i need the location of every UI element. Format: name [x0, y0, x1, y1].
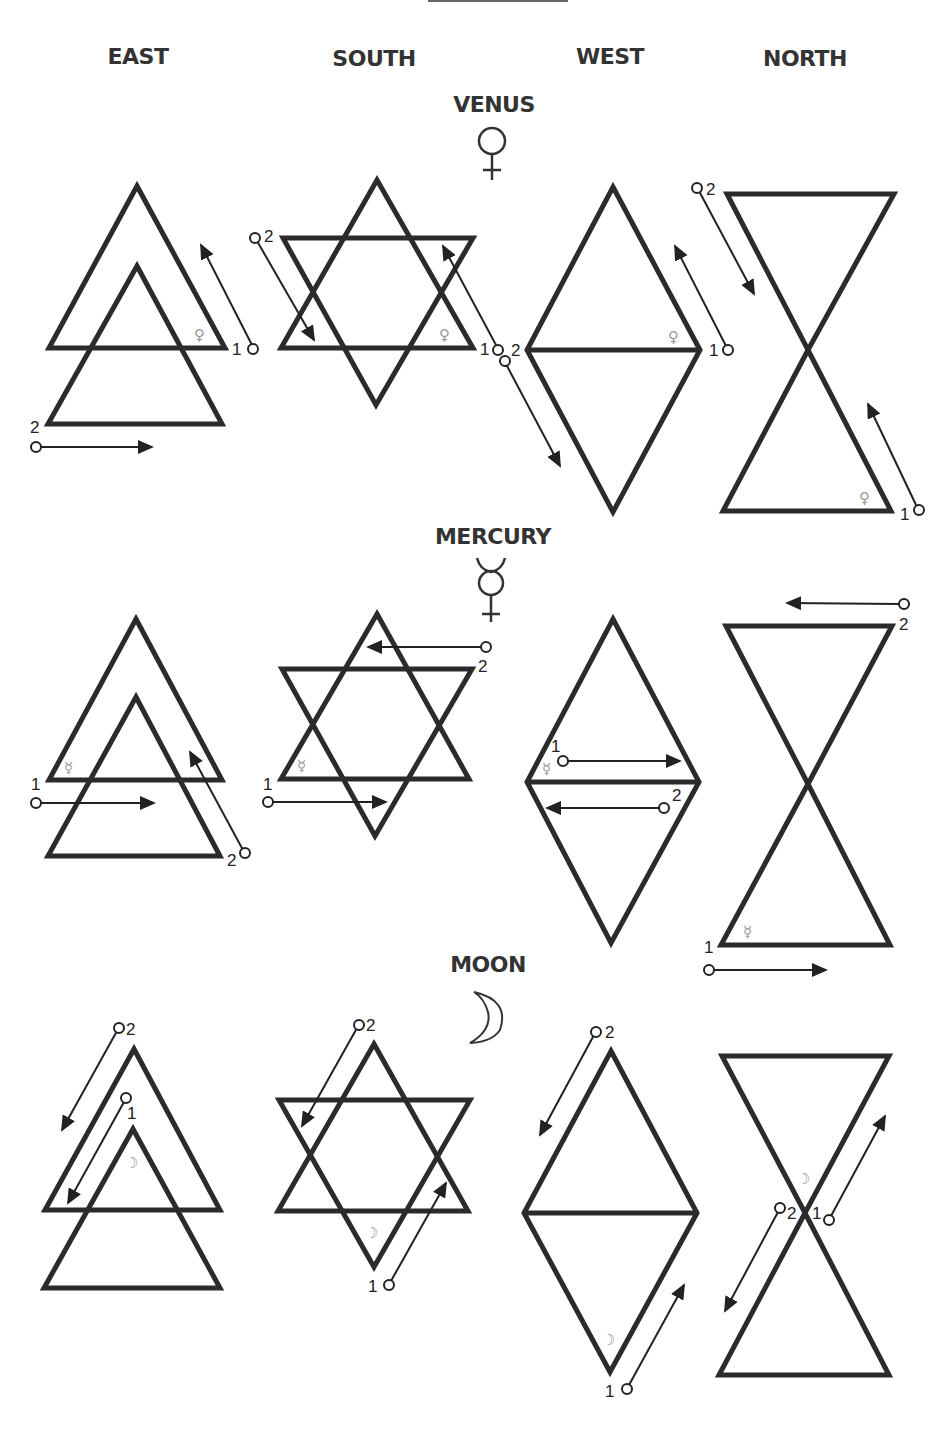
- svg-text:2: 2: [126, 1020, 135, 1039]
- svg-text:♀: ♀: [439, 326, 450, 344]
- mercury-south-figure: ☿ 1 2: [263, 614, 491, 836]
- svg-text:1: 1: [368, 1277, 377, 1296]
- svg-text:1: 1: [127, 1104, 136, 1123]
- svg-text:1: 1: [704, 938, 713, 957]
- svg-text:☿: ☿: [542, 760, 551, 778]
- svg-text:2: 2: [366, 1016, 375, 1035]
- svg-text:☽: ☽: [365, 1224, 378, 1242]
- svg-text:2: 2: [478, 657, 487, 676]
- svg-text:☽: ☽: [125, 1154, 138, 1172]
- svg-text:2: 2: [264, 227, 273, 246]
- venus-symbol-icon: [479, 128, 505, 180]
- svg-text:1: 1: [263, 775, 272, 794]
- svg-text:☽: ☽: [797, 1170, 810, 1188]
- svg-text:2: 2: [227, 851, 236, 870]
- svg-text:2: 2: [706, 180, 715, 199]
- moon-north-figure: ☽ 1 2: [719, 1056, 889, 1375]
- mercury-north-figure: ☿ 2 1: [704, 599, 909, 975]
- svg-text:1: 1: [480, 340, 489, 359]
- svg-text:2: 2: [30, 418, 39, 437]
- svg-text:2: 2: [899, 615, 908, 634]
- svg-text:2: 2: [787, 1204, 796, 1223]
- venus-south-figure: ♀ 2 1: [250, 180, 503, 405]
- moon-east-figure: ☽ 2 1: [44, 1020, 220, 1288]
- moon-symbol-icon: [470, 992, 502, 1043]
- svg-text:1: 1: [709, 341, 718, 360]
- svg-text:☽: ☽: [602, 1331, 615, 1349]
- mercury-west-figure: ☿ 1 2: [527, 619, 699, 943]
- svg-text:1: 1: [812, 1204, 821, 1223]
- mercury-symbol-icon: [477, 558, 505, 622]
- svg-text:☿: ☿: [743, 923, 752, 941]
- svg-text:1: 1: [31, 775, 40, 794]
- svg-text:1: 1: [605, 1382, 614, 1401]
- svg-text:2: 2: [672, 786, 681, 805]
- svg-text:♀: ♀: [859, 489, 870, 507]
- svg-text:☿: ☿: [64, 759, 73, 777]
- moon-west-figure: ☽ 2 1: [524, 1023, 697, 1401]
- pentagram-ritual-diagram: ♀ 1 2 ♀ 2 1 ♀ 1 2 ♀ 2: [0, 0, 951, 1434]
- venus-east-figure: ♀ 1 2: [30, 186, 258, 452]
- venus-glyph-icon: ♀: [194, 326, 205, 344]
- svg-text:1: 1: [551, 737, 560, 756]
- svg-text:2: 2: [605, 1023, 614, 1042]
- moon-south-figure: ☽ 2 1: [278, 1016, 470, 1296]
- svg-text:♀: ♀: [668, 328, 679, 346]
- svg-text:2: 2: [511, 341, 520, 360]
- venus-west-figure: ♀ 1 2: [500, 187, 733, 512]
- svg-text:☿: ☿: [297, 757, 306, 775]
- mercury-east-figure: ☿ 1 2: [31, 619, 250, 870]
- svg-text:1: 1: [232, 340, 241, 359]
- svg-text:1: 1: [900, 505, 909, 524]
